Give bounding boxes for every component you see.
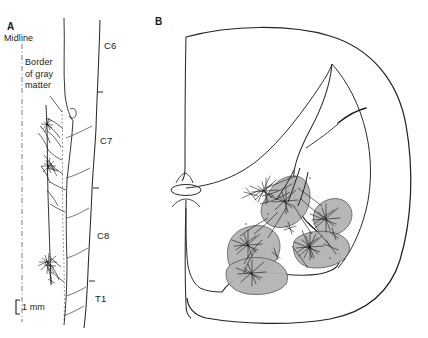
- arbor-c8: [38, 253, 57, 284]
- panel-a-letter: A: [7, 21, 14, 32]
- dorsal-median-septum: [182, 37, 186, 181]
- segment-label-c6: C6: [104, 40, 116, 51]
- figure-drawing: [0, 0, 428, 338]
- gray-matter-border-label: Border of gray matter: [25, 57, 53, 92]
- gray-matter-leader-line: [50, 96, 62, 112]
- central-canal: [171, 185, 201, 196]
- cord-lateral-outline: [84, 20, 100, 328]
- cord-medial-outline: [64, 18, 73, 325]
- panel-b-group: [171, 27, 411, 323]
- segment-label-c7: C7: [100, 135, 112, 146]
- midline-label: Midline: [4, 33, 33, 44]
- cord-outer-boundary: [186, 27, 411, 323]
- ventral-gray-matter-border: [186, 208, 222, 292]
- arbor-c7: [41, 158, 58, 176]
- panel-a-internal-septa: [64, 126, 92, 316]
- scale-bar-label: 1 mm: [22, 302, 45, 313]
- segment-label-t1: T1: [95, 293, 106, 304]
- panel-a-axon-collaterals: [38, 118, 66, 282]
- panel-b-letter: B: [155, 16, 162, 27]
- dorsal-gray-matter-boundary: [186, 64, 332, 188]
- scale-bar-bracket: [16, 300, 20, 314]
- gray-matter-border-dotted-line: [62, 110, 64, 320]
- figure-root: A Midline Border of gray matter C6 C7 C8…: [0, 0, 428, 338]
- cord-outline-bulge-detail: [69, 108, 76, 118]
- motor-nuclei-group: [226, 176, 352, 295]
- segment-label-c8: C8: [97, 230, 109, 241]
